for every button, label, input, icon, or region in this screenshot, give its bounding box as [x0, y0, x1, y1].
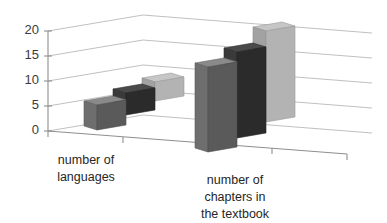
value-axis-label-20: 20: [25, 22, 39, 37]
bar-side-face: [126, 88, 155, 115]
bar-front-face: [84, 101, 97, 130]
value-axis-label-15: 15: [25, 47, 39, 62]
category-label-chapters: number of chapters in the textbook: [201, 173, 270, 221]
gridline-20: [48, 15, 372, 33]
category-label-languages: number of languages: [57, 153, 115, 184]
chart-container: 20 15 10 5 0: [0, 0, 387, 223]
category-label-line: chapters in: [204, 190, 265, 204]
bar-front-face: [195, 63, 208, 152]
bar-group-1-series-1: [84, 96, 126, 130]
bar-side-face: [266, 26, 295, 122]
category-label-line: number of: [58, 153, 115, 167]
value-axis-label-0: 0: [32, 122, 39, 137]
bar-side-face: [208, 62, 237, 152]
bar-chart-3d: 20 15 10 5 0: [0, 0, 387, 223]
bar-group-2-series-1: [195, 58, 237, 152]
gridline-15: [48, 40, 372, 58]
bar-side-face: [97, 100, 126, 130]
value-axis-label-5: 5: [32, 97, 39, 112]
bar-side-face: [237, 47, 266, 138]
category-label-line: number of: [207, 173, 264, 187]
category-label-line: languages: [57, 170, 115, 184]
value-axis-label-10: 10: [25, 72, 39, 87]
value-axis: 20 15 10 5 0: [25, 22, 52, 137]
category-label-line: the textbook: [201, 207, 270, 221]
